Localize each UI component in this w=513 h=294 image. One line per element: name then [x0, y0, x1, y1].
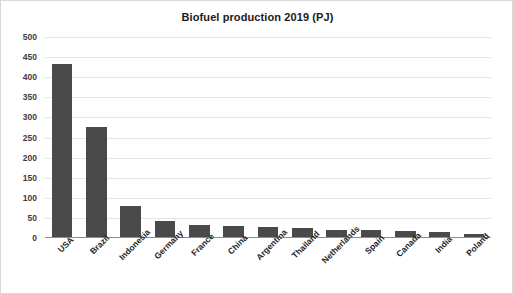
bar-slot: [251, 37, 285, 238]
y-axis-tick-label: 300: [23, 112, 37, 122]
bar-slot: [217, 37, 251, 238]
x-axis-label-slot: Indonesia: [114, 239, 148, 293]
bar-slot: [79, 37, 113, 238]
y-axis-tick-label: 400: [23, 72, 37, 82]
y-axis-tick-label: 350: [23, 92, 37, 102]
chart-title: Biofuel production 2019 (PJ): [1, 11, 513, 23]
bar-slot: [114, 37, 148, 238]
x-axis-line: [45, 237, 491, 239]
x-axis-label-slot: Brazil: [79, 239, 113, 293]
bar-slot: [457, 37, 491, 238]
y-axis-tick-label: 150: [23, 173, 37, 183]
x-axis-label-slot: Poland: [457, 239, 491, 293]
bar-series: [45, 37, 491, 238]
x-axis: USABrazilIndonesiaGermanyFranceChinaArge…: [45, 239, 491, 293]
y-axis-tick-label: 0: [32, 233, 37, 243]
x-axis-label-slot: Germany: [148, 239, 182, 293]
y-axis: 050100150200250300350400450500: [1, 37, 41, 238]
y-axis-tick-label: 250: [23, 133, 37, 143]
plot-area: [45, 37, 491, 238]
y-axis-tick-label: 100: [23, 193, 37, 203]
bar-slot: [285, 37, 319, 238]
y-axis-tick-label: 450: [23, 52, 37, 62]
bar-slot: [319, 37, 353, 238]
x-axis-label-slot: Argentina: [251, 239, 285, 293]
x-axis-label-slot: Spain: [354, 239, 388, 293]
bar-slot: [388, 37, 422, 238]
bar-slot: [354, 37, 388, 238]
y-axis-tick-label: 500: [23, 32, 37, 42]
bar-slot: [182, 37, 216, 238]
y-axis-tick-label: 200: [23, 153, 37, 163]
x-axis-label-slot: Thailand: [285, 239, 319, 293]
x-axis-label-slot: USA: [45, 239, 79, 293]
bar[interactable]: [52, 64, 73, 238]
chart-screenshot: Biofuel production 2019 (PJ) 05010015020…: [0, 0, 513, 294]
bar[interactable]: [86, 127, 107, 238]
bar-slot: [45, 37, 79, 238]
x-axis-label-slot: Netherlands: [319, 239, 353, 293]
y-axis-tick-label: 50: [28, 213, 37, 223]
bar-slot: [422, 37, 456, 238]
bar-slot: [148, 37, 182, 238]
x-axis-label-slot: France: [182, 239, 216, 293]
x-axis-label-slot: China: [217, 239, 251, 293]
x-axis-label-slot: India: [422, 239, 456, 293]
x-axis-label-slot: Canada: [388, 239, 422, 293]
